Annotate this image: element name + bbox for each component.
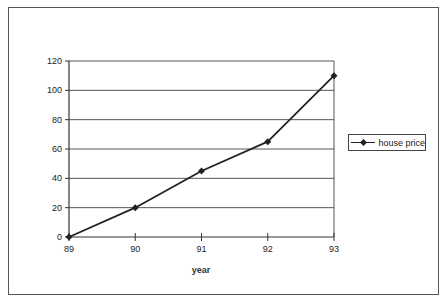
x-tick-label: 89 xyxy=(64,244,74,254)
x-tick-label: 90 xyxy=(130,244,140,254)
legend: house price xyxy=(348,134,426,151)
diamond-marker-icon xyxy=(198,168,205,175)
y-tick-label: 100 xyxy=(47,85,62,95)
y-tick-label: 60 xyxy=(52,144,62,154)
y-tick-label: 40 xyxy=(52,173,62,183)
diamond-marker-icon xyxy=(66,234,73,241)
y-axis: 020406080100120 xyxy=(47,56,69,242)
series-line xyxy=(69,76,334,237)
x-tick-label: 93 xyxy=(329,244,339,254)
legend-label: house price xyxy=(378,138,425,148)
line-chart: 020406080100120 8990919293 year xyxy=(0,0,448,302)
y-tick-label: 20 xyxy=(52,203,62,213)
x-axis-title: year xyxy=(192,265,211,275)
x-tick-label: 92 xyxy=(263,244,273,254)
diamond-marker-icon xyxy=(132,204,139,211)
y-tick-label: 0 xyxy=(57,232,62,242)
series-house-price xyxy=(66,72,338,240)
y-tick-label: 120 xyxy=(47,56,62,66)
x-tick-label: 91 xyxy=(196,244,206,254)
x-axis: 8990919293 xyxy=(64,233,339,254)
gridlines xyxy=(69,61,334,208)
y-tick-label: 80 xyxy=(52,115,62,125)
line-diamond-marker-icon xyxy=(351,138,375,148)
